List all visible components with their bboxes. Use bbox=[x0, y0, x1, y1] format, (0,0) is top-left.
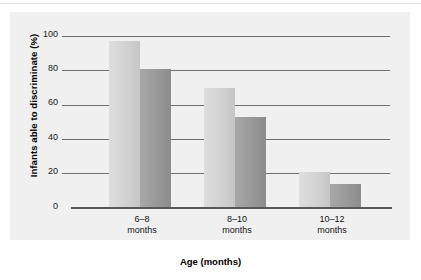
x-tick-unit-10-12: months bbox=[287, 225, 377, 236]
y-tick-label-40: 40 bbox=[18, 132, 58, 142]
x-axis-title: Age (months) bbox=[0, 256, 421, 267]
y-tick-label-0: 0 bbox=[18, 201, 58, 211]
bar-light-8-10 bbox=[204, 88, 235, 208]
x-axis-line bbox=[71, 207, 392, 209]
bar-light-6-8 bbox=[109, 41, 140, 208]
gridline-100 bbox=[73, 36, 390, 37]
bar-dark-10-12 bbox=[330, 184, 361, 208]
x-tick-range-6-8: 6–8 bbox=[97, 214, 187, 225]
plot-area bbox=[73, 36, 390, 208]
top-rule bbox=[0, 3, 421, 4]
bar-dark-6-8 bbox=[140, 69, 171, 208]
y-tick-label-60: 60 bbox=[18, 97, 58, 107]
bar-dark-8-10 bbox=[235, 117, 266, 208]
x-tick-label-6-8: 6–8 months bbox=[97, 214, 187, 236]
bar-light-10-12 bbox=[299, 172, 330, 208]
x-tick-unit-6-8: months bbox=[97, 225, 187, 236]
x-tick-label-8-10: 8–10 months bbox=[192, 214, 282, 236]
y-tick-label-80: 80 bbox=[18, 63, 58, 73]
x-tick-range-10-12: 10–12 bbox=[287, 214, 377, 225]
y-tick-label-20: 20 bbox=[18, 166, 58, 176]
y-tick-label-100: 100 bbox=[18, 29, 58, 39]
x-tick-unit-8-10: months bbox=[192, 225, 282, 236]
x-tick-label-10-12: 10–12 months bbox=[287, 214, 377, 236]
x-tick-range-8-10: 8–10 bbox=[192, 214, 282, 225]
figure: Infants able to discriminate (%) 0 20 40… bbox=[0, 0, 421, 280]
